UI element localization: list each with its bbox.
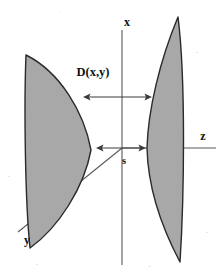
- gap-label: s: [122, 155, 126, 166]
- x-axis-label: x: [124, 15, 130, 29]
- y-axis-label: y: [24, 233, 30, 247]
- figure-root: D(x,y) s x y z: [0, 0, 220, 271]
- distance-label: D(x,y): [77, 65, 110, 79]
- z-axis-label: z: [200, 129, 206, 143]
- diagram-canvas: D(x,y) s x y z: [0, 0, 220, 271]
